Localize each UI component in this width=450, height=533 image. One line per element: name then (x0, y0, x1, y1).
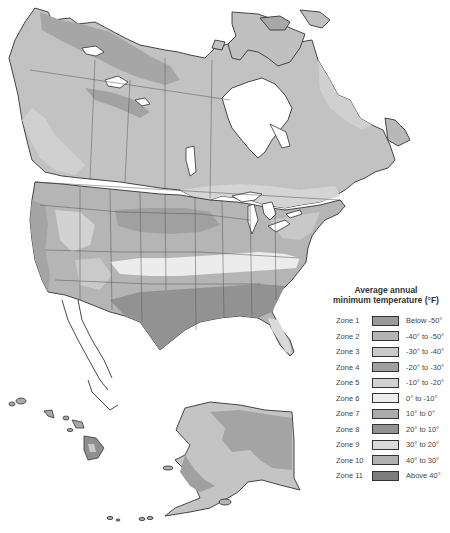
legend-row-zone-11: Zone 11Above 40° (336, 468, 450, 484)
zone-label: Zone 11 (336, 471, 372, 480)
legend-row-zone-9: Zone 930° to 20° (336, 437, 450, 453)
zone-label: Zone 8 (336, 425, 372, 434)
zone-label: Zone 3 (336, 347, 372, 356)
zone-color-swatch (372, 440, 399, 450)
legend-row-zone-8: Zone 820° to 10° (336, 422, 450, 438)
legend-row-zone-1: Zone 1Below -50° (336, 313, 450, 329)
zone-color-swatch (372, 455, 399, 465)
zone-color-swatch (372, 409, 399, 419)
zone-temperature-range: Below -50° (406, 316, 442, 325)
zone-label: Zone 1 (336, 316, 372, 325)
legend-title-line1: Average annual (322, 285, 450, 295)
zone-temperature-range: -20° to -30° (406, 363, 444, 372)
legend: Average annual minimum temperature (°F) … (336, 285, 450, 484)
legend-row-zone-4: Zone 4-20° to -30° (336, 360, 450, 376)
zone-temperature-range: 30° to 20° (406, 440, 439, 449)
legend-row-zone-6: Zone 60° to -10° (336, 391, 450, 407)
hawaii (9, 398, 104, 460)
alaska (107, 402, 300, 521)
zone-label: Zone 6 (336, 394, 372, 403)
zone-label: Zone 9 (336, 440, 372, 449)
zone-color-swatch (372, 347, 399, 357)
zone-label: Zone 7 (336, 409, 372, 418)
legend-row-zone-5: Zone 5-10° to -20° (336, 375, 450, 391)
zone-temperature-range: Above 40° (406, 471, 441, 480)
legend-row-zone-2: Zone 2-40° to -50° (336, 329, 450, 345)
legend-row-zone-10: Zone 1040° to 30° (336, 453, 450, 469)
canada-region (9, 8, 395, 208)
zone-temperature-range: 10° to 0° (406, 409, 435, 418)
zone-label: Zone 4 (336, 363, 372, 372)
zone-temperature-range: 40° to 30° (406, 456, 439, 465)
zone-color-swatch (372, 316, 399, 326)
legend-title: Average annual minimum temperature (°F) (322, 285, 450, 305)
zone-color-swatch (372, 362, 399, 372)
zone-label: Zone 2 (336, 332, 372, 341)
zone-temperature-range: -40° to -50° (406, 332, 444, 341)
legend-row-zone-3: Zone 3-30° to -40° (336, 344, 450, 360)
legend-title-line2: minimum temperature (°F) (322, 295, 450, 305)
legend-rows: Zone 1Below -50°Zone 2-40° to -50°Zone 3… (336, 313, 450, 484)
baja-california (62, 300, 118, 410)
zone-label: Zone 5 (336, 378, 372, 387)
zone-temperature-range: -10° to -20° (406, 378, 444, 387)
zone-color-swatch (372, 393, 399, 403)
legend-row-zone-7: Zone 710° to 0° (336, 406, 450, 422)
zone-color-swatch (372, 471, 399, 481)
zone-label: Zone 10 (336, 456, 372, 465)
zone-color-swatch (372, 378, 399, 388)
zone-temperature-range: 20° to 10° (406, 425, 439, 434)
zone-temperature-range: 0° to -10° (406, 394, 437, 403)
zone-temperature-range: -30° to -40° (406, 347, 444, 356)
zone-color-swatch (372, 424, 399, 434)
zone-color-swatch (372, 331, 399, 341)
